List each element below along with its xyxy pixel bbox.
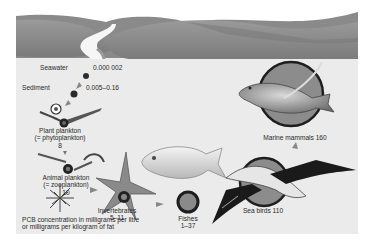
invertebrates-name: Invertebrates — [98, 207, 136, 214]
seawater-dot — [83, 73, 89, 79]
sea-birds-label: Sea birds 110 — [243, 207, 283, 214]
zooplankton-sublabel: (= zooplankton) — [43, 181, 90, 188]
seawater-label: Seawater — [40, 64, 68, 71]
zooplankton-name: Animal plankton — [43, 174, 90, 181]
sediment-value: 0.005–0.16 — [86, 84, 119, 91]
fishes-value: 1–37 — [178, 222, 197, 229]
phytoplankton-label: Plant plankton (= phytoplankton) 8 — [34, 127, 85, 149]
zooplankton-value: 10 — [43, 189, 90, 196]
zooplankton-label: Animal plankton (= zooplankton) 10 — [43, 174, 90, 196]
phytoplankton-name: Plant plankton — [34, 127, 85, 134]
caption-line-2: or milligrams per kilogram of fat — [22, 223, 139, 230]
fishes-label: Fishes 1–37 — [178, 215, 197, 230]
caption-line-1: PCB concentration in milligrams per litr… — [22, 216, 139, 223]
marine-mammals-label: Marine mammals 160 — [263, 134, 326, 141]
sediment-dot — [71, 91, 78, 98]
fishes-name: Fishes — [178, 215, 197, 222]
phytoplankton-value: 8 — [34, 142, 85, 149]
seawater-value: 0.000 002 — [93, 64, 122, 71]
sediment-label: Sediment — [22, 84, 50, 91]
diagram-panel: Seawater 0.000 002 Sediment 0.005–0.16 P… — [16, 12, 358, 234]
figure-caption: PCB concentration in milligrams per litr… — [22, 216, 139, 231]
phytoplankton-sublabel: (= phytoplankton) — [34, 134, 85, 141]
food-chain-illustration — [16, 12, 358, 234]
